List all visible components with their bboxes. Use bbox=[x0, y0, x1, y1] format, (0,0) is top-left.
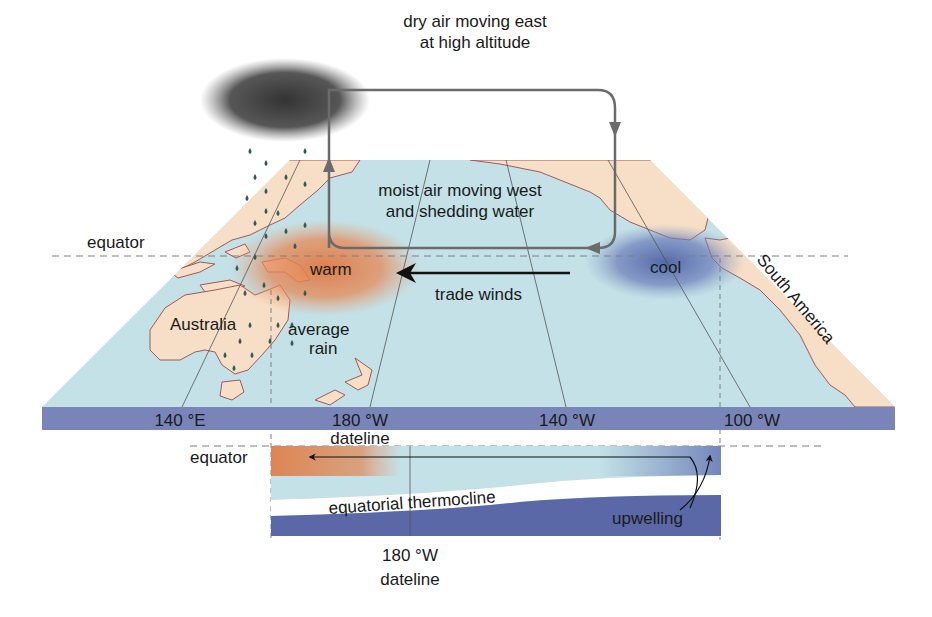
australia-label: Australia bbox=[170, 315, 237, 334]
upper-air-label-line2: at high altitude bbox=[420, 33, 531, 52]
longitude-tick-140w: 140 °W bbox=[539, 411, 595, 430]
warm-surface-water bbox=[271, 446, 401, 476]
cool-label: cool bbox=[650, 258, 681, 277]
average-rain-label-line1: average bbox=[288, 320, 349, 339]
down-arrow-icon bbox=[609, 122, 621, 137]
rain-cloud bbox=[200, 58, 370, 142]
longitude-tick-100w: 100 °W bbox=[724, 411, 780, 430]
upper-air-label-line1: dry air moving east bbox=[403, 12, 547, 31]
equator-label-top: equator bbox=[87, 233, 145, 252]
raindrop-icon bbox=[304, 148, 307, 154]
trade-winds-label: trade winds bbox=[435, 285, 522, 304]
longitude-tick-140e: 140 °E bbox=[154, 411, 205, 430]
walker-circulation-diagram: dry air moving east at high altitude moi… bbox=[0, 0, 932, 617]
bottom-dateline-label: dateline bbox=[380, 570, 440, 589]
raindrop-icon bbox=[249, 148, 252, 154]
cool-surface-water bbox=[600, 446, 721, 476]
raindrop-icon bbox=[254, 174, 257, 180]
raindrop-icon bbox=[246, 195, 249, 201]
lower-air-label-line2: and shedding water bbox=[386, 202, 535, 221]
dateline-label-band: dateline bbox=[330, 429, 390, 448]
raindrop-icon bbox=[265, 160, 268, 166]
bottom-longitude-label: 180 °W bbox=[382, 546, 438, 565]
warm-label: warm bbox=[309, 260, 352, 279]
average-rain-label-line2: rain bbox=[309, 339, 337, 358]
equator-label-bottom: equator bbox=[190, 448, 248, 467]
upwelling-label: upwelling bbox=[612, 509, 683, 528]
ocean-cross-section bbox=[190, 446, 825, 536]
lower-air-label-line1: moist air moving west bbox=[378, 181, 542, 200]
longitude-tick-180w: 180 °W bbox=[332, 411, 388, 430]
